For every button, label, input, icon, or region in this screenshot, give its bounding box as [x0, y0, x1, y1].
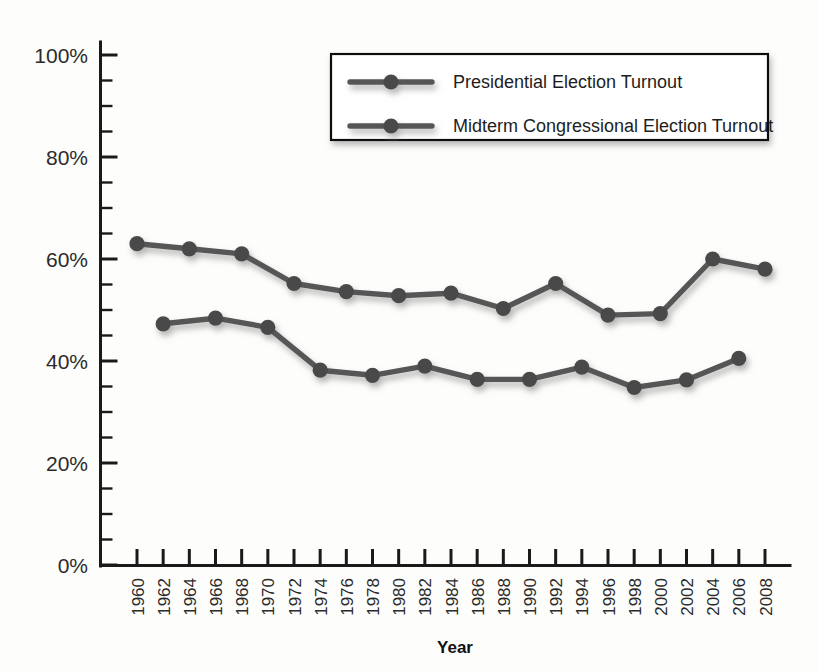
data-point-marker	[129, 236, 144, 251]
x-tick-label: 1994	[573, 578, 592, 616]
series-presidential	[129, 236, 772, 323]
data-point-marker	[182, 241, 197, 256]
x-tick-label: 1990	[521, 578, 540, 616]
chart-svg: 0%20%40%60%80%100% 196019621964196619681…	[0, 0, 818, 672]
y-tick-label: 60%	[46, 248, 88, 271]
data-point-marker	[574, 360, 589, 375]
y-tick-label: 80%	[46, 146, 88, 169]
x-tick-label: 2008	[757, 578, 776, 616]
data-point-marker	[496, 301, 511, 316]
data-series-layer	[129, 236, 772, 395]
data-point-marker	[627, 380, 642, 395]
legend-label: Midterm Congressional Election Turnout	[453, 116, 773, 136]
x-tick-label: 1980	[390, 578, 409, 616]
x-tick-label: 1972	[286, 578, 305, 616]
x-tick-label: 1966	[207, 578, 226, 616]
data-point-marker	[234, 246, 249, 261]
x-axis-ticks	[137, 549, 765, 566]
data-point-marker	[705, 251, 720, 266]
legend-swatch-dot	[383, 74, 398, 89]
x-tick-label: 2002	[678, 578, 697, 616]
data-point-marker	[653, 306, 668, 321]
data-point-marker	[548, 276, 563, 291]
data-point-marker	[731, 351, 746, 366]
x-tick-label: 1984	[443, 578, 462, 616]
legend-swatch-dot	[383, 118, 398, 133]
x-tick-label: 2000	[652, 578, 671, 616]
x-tick-label: 1986	[469, 578, 488, 616]
y-tick-label: 100%	[34, 44, 88, 67]
x-tick-label: 2006	[730, 578, 749, 616]
y-axis-ticks	[101, 55, 118, 565]
x-axis-tick-labels: 1960196219641966196819701972197419761978…	[129, 578, 776, 616]
data-point-marker	[339, 284, 354, 299]
y-axis-tick-labels: 0%20%40%60%80%100%	[34, 44, 88, 577]
x-tick-label: 1992	[547, 578, 566, 616]
data-point-marker	[208, 311, 223, 326]
x-tick-label: 1976	[338, 578, 357, 616]
data-point-marker	[313, 363, 328, 378]
x-tick-label: 1998	[626, 578, 645, 616]
x-tick-label: 1988	[495, 578, 514, 616]
x-axis: 1960196219641966196819701972197419761978…	[101, 549, 791, 657]
x-tick-label: 1996	[600, 578, 619, 616]
data-point-marker	[156, 316, 171, 331]
legend-label: Presidential Election Turnout	[453, 72, 682, 92]
data-point-marker	[522, 372, 537, 387]
series-midterm	[156, 311, 747, 396]
x-tick-label: 1970	[259, 578, 278, 616]
data-point-marker	[443, 286, 458, 301]
y-tick-label: 20%	[46, 452, 88, 475]
x-tick-label: 1962	[155, 578, 174, 616]
data-point-marker	[365, 368, 380, 383]
turnout-line-chart: 0%20%40%60%80%100% 196019621964196619681…	[0, 0, 818, 672]
data-point-marker	[470, 372, 485, 387]
data-point-marker	[286, 276, 301, 291]
series-line	[137, 244, 765, 315]
series-line	[163, 318, 739, 387]
data-point-marker	[260, 320, 275, 335]
y-tick-label: 40%	[46, 350, 88, 373]
data-point-marker	[679, 372, 694, 387]
x-tick-label: 1978	[364, 578, 383, 616]
x-tick-label: 1964	[181, 578, 200, 616]
x-tick-label: 2004	[704, 578, 723, 616]
x-tick-label: 1982	[416, 578, 435, 616]
data-point-marker	[417, 359, 432, 374]
legend: Presidential Election TurnoutMidterm Con…	[331, 54, 773, 140]
x-tick-label: 1960	[129, 578, 148, 616]
data-point-marker	[600, 308, 615, 323]
x-axis-title: Year	[437, 638, 473, 657]
data-point-marker	[391, 288, 406, 303]
y-tick-label: 0%	[58, 554, 88, 577]
data-point-marker	[757, 262, 772, 277]
x-tick-label: 1974	[312, 578, 331, 616]
y-axis: 0%20%40%60%80%100%	[34, 42, 117, 577]
x-tick-label: 1968	[233, 578, 252, 616]
